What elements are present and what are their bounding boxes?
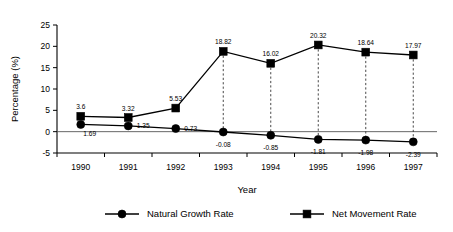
- data-point-marker-square: [267, 59, 275, 67]
- data-point-marker-circle: [172, 125, 180, 133]
- line-chart-svg: -50510152025Percentage (%)19901991199219…: [0, 0, 453, 232]
- data-point-label: 3.32: [122, 105, 135, 112]
- data-point-marker-circle: [124, 122, 132, 130]
- legend-marker-circle: [118, 210, 126, 218]
- data-point-label: 3.6: [76, 103, 85, 110]
- data-point-marker-square: [219, 47, 227, 55]
- data-point-label: 5.53: [169, 95, 182, 102]
- chart-canvas: -50510152025Percentage (%)19901991199219…: [0, 0, 453, 232]
- data-point-marker-square: [77, 112, 85, 120]
- y-axis-tick-label: 20: [41, 41, 51, 51]
- y-axis-tick-label: 5: [45, 105, 50, 115]
- y-axis-tick-label: 10: [41, 84, 51, 94]
- data-point-label: 16.02: [262, 50, 279, 57]
- data-point-marker-circle: [267, 131, 275, 139]
- data-point-marker-circle: [219, 128, 227, 136]
- y-axis-title: Percentage (%): [9, 56, 20, 122]
- data-point-marker-square: [409, 51, 417, 59]
- data-point-label: 0.73: [184, 125, 197, 132]
- x-axis-tick-label: 1990: [71, 162, 90, 172]
- data-point-marker-circle: [77, 120, 85, 128]
- data-point-label: 17.97: [405, 42, 422, 49]
- data-point-marker-square: [314, 41, 322, 49]
- data-point-label: -2.39: [406, 151, 421, 158]
- data-point-label: -1.98: [358, 149, 373, 156]
- y-axis-tick-label: -5: [42, 148, 50, 158]
- x-axis-tick-label: 1991: [119, 162, 138, 172]
- legend-marker-square: [303, 210, 311, 218]
- data-point-marker-square: [172, 104, 180, 112]
- data-point-marker-square: [124, 114, 132, 122]
- legend-label: Net Movement Rate: [332, 208, 416, 219]
- data-point-label: -1.81: [311, 148, 326, 155]
- x-axis-tick-label: 1994: [261, 162, 280, 172]
- data-point-label: -0.85: [263, 144, 278, 151]
- x-axis-tick-label: 1996: [356, 162, 375, 172]
- data-point-label: 18.64: [357, 39, 374, 46]
- data-point-label: 18.82: [215, 38, 232, 45]
- data-point-label: -0.08: [216, 141, 231, 148]
- data-point-marker-circle: [409, 138, 417, 146]
- legend-label: Natural Growth Rate: [147, 208, 234, 219]
- y-axis-tick-label: 25: [41, 20, 51, 30]
- chart-figure: -50510152025Percentage (%)19901991199219…: [0, 0, 453, 232]
- x-axis-tick-label: 1992: [166, 162, 185, 172]
- x-axis-tick-label: 1995: [309, 162, 328, 172]
- data-point-marker-circle: [362, 136, 370, 144]
- x-axis-tick-label: 1993: [214, 162, 233, 172]
- data-point-label: 1.35: [137, 122, 150, 129]
- y-axis-tick-label: 0: [45, 127, 50, 137]
- y-axis-tick-label: 15: [41, 63, 51, 73]
- data-point-label: 1.69: [83, 130, 96, 137]
- data-point-marker-square: [362, 48, 370, 56]
- x-axis-tick-label: 1997: [404, 162, 423, 172]
- data-point-marker-circle: [314, 135, 322, 143]
- x-axis-title: Year: [237, 184, 256, 195]
- data-point-label: 20.32: [310, 32, 327, 39]
